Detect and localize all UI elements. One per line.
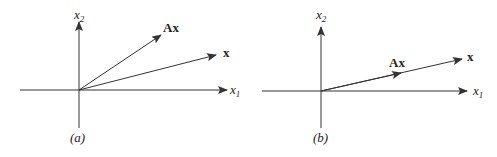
- eigenvector-figure: x2 x1 Ax x (a) x2 x1 Ax x (b): [0, 0, 497, 157]
- vector-Ax: [79, 35, 161, 90]
- x1-axis-label: x1: [229, 82, 240, 99]
- vector-x: [79, 55, 216, 90]
- vector-x-label: x: [223, 45, 230, 60]
- vector-Ax-label: Ax: [163, 20, 179, 35]
- x1-axis-label: x1: [472, 83, 483, 100]
- vector-Ax: [321, 73, 401, 91]
- panel-a: x2 x1 Ax x (a): [20, 7, 240, 145]
- x2-axis-label: x2: [73, 7, 85, 24]
- caption-a: (a): [70, 130, 85, 145]
- vector-x-label: x: [467, 49, 474, 64]
- caption-b: (b): [313, 130, 328, 145]
- x2-axis-label: x2: [315, 7, 327, 24]
- panel-b: x2 x1 Ax x (b): [262, 7, 483, 145]
- vector-Ax-label: Ax: [389, 55, 405, 70]
